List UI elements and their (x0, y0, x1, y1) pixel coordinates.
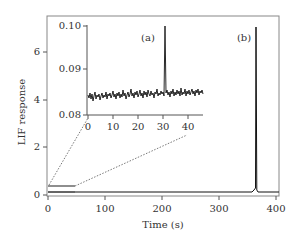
x-axis-label: Time (s) (142, 219, 183, 230)
main-x-axis (48, 196, 276, 200)
x-tick-0: 0 (45, 203, 51, 214)
inset-x-tick-0: 0 (85, 121, 91, 132)
main-series-line (48, 27, 279, 192)
main-plot-frame (47, 16, 279, 196)
connector-dashed-left (49, 118, 88, 185)
y-axis-label: LIF response (16, 79, 27, 146)
inset-y-tick-0.08: 0.08 (59, 109, 81, 120)
inset-x-tick-40: 40 (182, 121, 195, 132)
x-tick-100: 100 (95, 203, 114, 214)
y-tick-6: 6 (34, 46, 40, 57)
panel-label-b: (b) (237, 32, 251, 43)
main-y-axis (43, 52, 47, 195)
lif-response-chart: 0 2 4 6 0 100 200 300 400 Time (s) LIF r… (0, 0, 299, 240)
inset-x-tick-10: 10 (107, 121, 120, 132)
x-tick-400: 400 (266, 203, 285, 214)
y-tick-0: 0 (34, 189, 40, 200)
y-tick-4: 4 (34, 94, 40, 105)
connector-dashed-right (75, 135, 187, 186)
x-tick-300: 300 (209, 203, 228, 214)
y-tick-2: 2 (34, 141, 40, 152)
x-tick-200: 200 (152, 203, 171, 214)
inset-x-tick-20: 20 (132, 121, 145, 132)
panel-label-a: (a) (141, 32, 155, 43)
inset-x-tick-30: 30 (157, 121, 170, 132)
inset-y-tick-0.10: 0.10 (59, 20, 81, 31)
inset-y-tick-0.09: 0.09 (59, 63, 81, 74)
